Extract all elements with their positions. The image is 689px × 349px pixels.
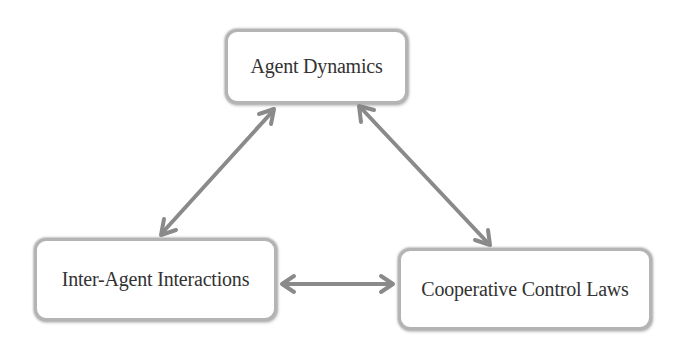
node-label: Cooperative Control Laws: [421, 278, 628, 301]
bidirectional-arrow-dynamics-interactions: [161, 109, 274, 235]
node-agent-dynamics: Agent Dynamics: [225, 29, 408, 104]
node-label: Agent Dynamics: [250, 55, 382, 78]
node-cooperative-control-laws: Cooperative Control Laws: [398, 248, 652, 330]
node-inter-agent-interactions: Inter-Agent Interactions: [34, 238, 277, 321]
diagram-canvas: Agent Dynamics Inter-Agent Interactions …: [0, 0, 689, 349]
bidirectional-arrow-interactions-control: [282, 276, 393, 292]
node-label: Inter-Agent Interactions: [62, 268, 250, 291]
bidirectional-arrow-dynamics-control: [359, 106, 490, 245]
